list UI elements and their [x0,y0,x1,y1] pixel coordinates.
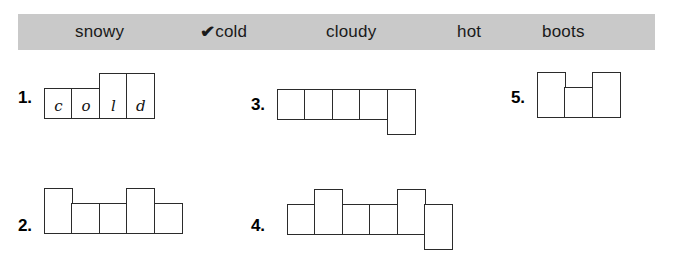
word-boxes[interactable] [44,188,181,234]
letter-box[interactable] [369,204,398,235]
letter-box[interactable] [304,89,333,120]
letter-box[interactable] [564,87,593,118]
problem-number: 3. [251,95,265,115]
problem-number: 2. [18,216,32,236]
word-bank-label: boots [542,22,585,41]
word-bank-item-cloudy[interactable]: cloudy [325,22,376,42]
letter-box-text: c [45,97,72,115]
problem-number: 5. [511,88,525,108]
problem-number: 4. [251,216,265,236]
word-boxes[interactable] [287,189,451,250]
letter-box[interactable] [287,204,316,235]
word-bank-label: snowy [75,22,124,41]
word-bank-item-cold[interactable]: ✔cold [201,22,247,42]
letter-box[interactable] [71,203,100,234]
letter-box-text: o [72,97,99,115]
word-bank-label: cold [215,22,247,41]
letter-box[interactable] [397,189,426,235]
letter-box[interactable]: l [99,73,128,119]
problem-number: 1. [18,88,32,108]
word-bank-item-boots[interactable]: boots [541,22,585,42]
checkmark-icon: ✔ [200,22,215,41]
letter-box[interactable] [314,189,343,235]
letter-box[interactable] [126,188,155,234]
letter-box[interactable]: d [126,73,155,119]
letter-box[interactable] [154,203,183,234]
word-boxes[interactable]: cold [44,73,154,119]
word-boxes[interactable] [537,72,619,118]
letter-box[interactable] [424,204,453,250]
letter-box[interactable] [99,203,128,234]
letter-box[interactable] [342,204,371,235]
letter-box-text: d [127,97,154,115]
letter-box[interactable]: c [44,88,73,119]
letter-box[interactable] [277,89,306,120]
letter-box[interactable] [387,89,416,135]
word-bank: snowy ✔cold cloudy hot boots [18,14,655,50]
letter-box[interactable] [537,72,566,118]
letter-box[interactable] [44,188,73,234]
word-boxes[interactable] [277,74,414,135]
word-bank-label: cloudy [326,22,376,41]
letter-box[interactable] [332,89,361,120]
letter-box[interactable] [592,72,621,118]
word-bank-label: hot [457,22,481,41]
word-bank-item-snowy[interactable]: snowy [74,22,124,42]
letter-box[interactable] [359,89,388,120]
word-bank-item-hot[interactable]: hot [456,22,481,42]
letter-box-text: l [100,97,127,115]
letter-box[interactable]: o [71,88,100,119]
